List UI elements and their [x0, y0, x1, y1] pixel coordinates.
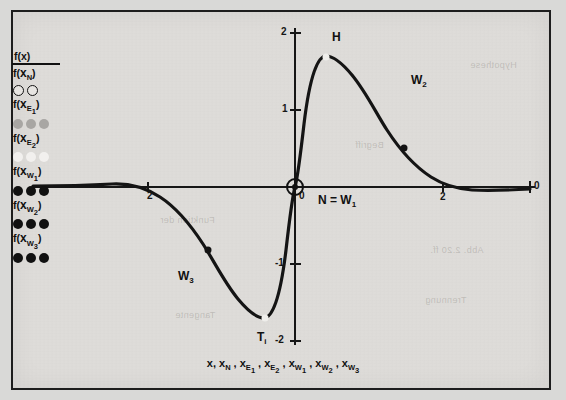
legend-entry-xw1: f(xW1): [12, 165, 64, 197]
legend-dot-black: [26, 219, 36, 229]
label-trough-ti: Ti: [257, 331, 267, 346]
legend-label-xw2: f(xW2): [12, 199, 64, 219]
legend-markers-xn: [12, 84, 64, 96]
legend-markers-xe2: [12, 151, 64, 163]
data-point-peak: [323, 54, 330, 61]
label-w3: W3: [178, 270, 194, 285]
figure-container: Hypothese Abb. 2.20 ff. Trennung Funktio…: [0, 0, 566, 400]
legend-dot-open: [13, 85, 24, 96]
legend-dot-black: [26, 253, 36, 263]
legend-title: f(x): [12, 50, 60, 65]
legend-dot-black: [13, 253, 23, 263]
legend-entry-xw3: f(xW3): [12, 232, 64, 264]
label-peak-h: H: [332, 31, 341, 43]
legend-entry-xn: f(xN): [12, 67, 64, 96]
legend-label-xn: f(xN): [12, 67, 64, 84]
legend-dot-gray: [13, 119, 23, 129]
legend-label-xe2: f(xE2): [12, 132, 64, 152]
data-point-w2: [401, 145, 408, 152]
legend-dot-black: [39, 253, 49, 263]
label-origin-identity: N = W1: [318, 193, 356, 209]
legend-markers-xw1: [12, 185, 64, 197]
y-tick-label-neg1: -1: [275, 258, 284, 268]
legend-dot-white: [26, 152, 36, 162]
legend-dot-open: [27, 85, 38, 96]
legend-label-xe1: f(xE1): [12, 98, 64, 118]
legend-markers-xe1: [12, 118, 64, 130]
legend-label-xw3: f(xW3): [12, 232, 64, 252]
data-point-origin: [286, 178, 304, 196]
legend-label-xw1: f(xW1): [12, 165, 64, 185]
legend-dot-gray: [26, 119, 36, 129]
legend-markers-xw2: [12, 218, 64, 230]
legend: f(x) f(xN) f(xE1) f(xE2): [12, 50, 64, 264]
legend-dot-gray: [39, 119, 49, 129]
legend-dot-black: [13, 186, 23, 196]
legend-dot-black: [39, 219, 49, 229]
x-tick-label-neg2: 2: [147, 191, 153, 201]
legend-dot-white: [39, 152, 49, 162]
legend-entry-xe1: f(xE1): [12, 98, 64, 130]
legend-dot-black: [13, 219, 23, 229]
legend-entry-xe2: f(xE2): [12, 132, 64, 164]
legend-dot-black: [39, 186, 49, 196]
data-point-w3: [205, 247, 212, 254]
legend-markers-xw3: [12, 252, 64, 264]
y-tick-label-neg2: -2: [275, 335, 284, 345]
y-tick-label-1: 1: [282, 104, 288, 114]
legend-dot-black: [26, 186, 36, 196]
legend-entry-xw2: f(xW2): [12, 199, 64, 231]
y-tick-label-2: 2: [281, 27, 287, 37]
x-axis-caption: x, xN , xE1 , xE2 , xW1 , xW2 , xW3: [0, 358, 566, 374]
x-tick-label-pos2: 2: [440, 192, 446, 202]
x-axis-end-label: 0: [534, 181, 540, 191]
legend-dot-white: [13, 152, 23, 162]
data-point-trough: [262, 315, 269, 322]
label-w2: W2: [411, 74, 427, 89]
